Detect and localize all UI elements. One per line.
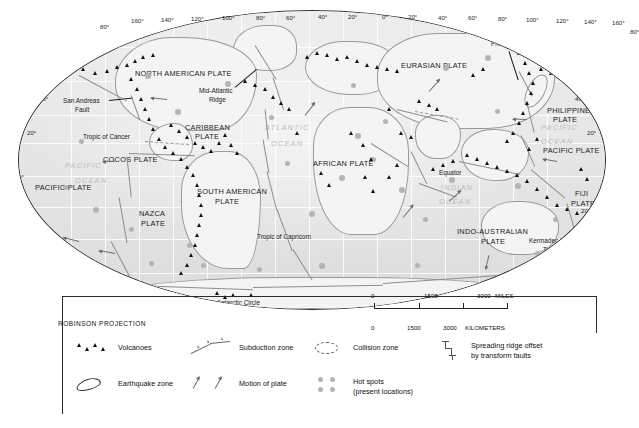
longitude-tick-120e: 120° [556,17,569,24]
volcano-marker [315,51,319,55]
volcano-marker [575,241,579,245]
hot-spot [309,211,315,217]
volcano-marker [193,243,197,247]
volcano-marker [279,101,283,105]
volcano-marker [435,107,439,111]
volcano-marker [45,255,49,259]
feature-label-san-andreas-line1: San Andreas [63,97,100,105]
longitude-tick-40w: 40° [318,13,327,20]
volcano-marker [525,179,529,183]
volcano-marker [583,251,587,255]
volcano-triangles-icon [77,342,111,354]
hot-spot [257,267,262,272]
volcano-marker [115,65,119,69]
volcano-marker [105,69,109,73]
volcano-marker [375,65,379,69]
plate-label-indo-australian-line2: PLATE [481,237,505,247]
feature-label-mid-atlantic-line2: Ridge [209,96,226,104]
volcano-marker [441,163,445,167]
legend-label-collision-zone: Collision zone [353,343,398,353]
volcano-marker [71,61,75,65]
longitude-tick-60w: 60° [286,14,295,21]
plate-label-pacific-right: PACIFIC PLATE [543,146,600,156]
volcano-marker [385,67,389,71]
longitude-tick-40e: 40° [438,14,447,21]
latitude-tick-left-60s: 60° [63,281,72,288]
map-area: PACIFIC OCEAN ATLANTIC OCEAN INDIAN OCEA… [18,10,606,315]
volcano-marker [517,121,521,125]
hot-spot [201,263,206,268]
legend-label-spreading-ridge: Spreading ridge offset [471,341,542,351]
volcano-marker [169,123,173,127]
volcano-marker [549,71,553,75]
volcano-marker [369,157,373,161]
feature-label-kermadec-line1: Kermadec-Tonga [529,237,578,245]
volcano-marker [521,111,525,115]
hot-spot [93,207,99,213]
hot-spot [149,261,154,266]
longitude-tick-160e: 160° [612,19,625,26]
hot-spot [319,263,325,269]
longitude-tick-100w: 100° [222,14,235,21]
volcano-marker [345,55,349,59]
longitude-edge-tick-right: 80° [630,28,639,35]
volcano-marker [515,173,519,177]
ocean-label-pacific-left-line1: PACIFIC [65,161,102,170]
hot-spot [399,187,405,193]
hot-spot [63,185,68,190]
legend-label-volcanoes: Volcanoes [118,343,152,353]
volcano-marker [523,61,527,65]
volcano-marker [143,107,147,111]
volcano-marker [235,151,239,155]
hot-spot [187,243,192,248]
latitude-tick-right-60s: 60° [547,283,556,290]
volcano-marker [355,59,359,63]
longitude-tick-0: 0° [382,13,388,20]
volcano-marker [569,81,573,85]
motion-arrows-icon [191,375,231,393]
hotspot-dots-icon [318,377,342,393]
legend-label-earthquake-zone: Earthquake zone [118,379,173,389]
volcano-marker [371,189,375,193]
volcano-marker [135,87,139,91]
volcano-marker [325,53,329,57]
landmass-north-america [115,37,257,131]
volcano-marker [535,187,539,191]
plate-label-indo-australian-line1: INDO-AUSTRALIAN [457,227,528,237]
volcano-marker [195,183,199,187]
volcano-marker [387,107,391,111]
hot-spot [515,183,521,189]
plate-label-nazca-line1: NAZCA [139,209,165,219]
longitude-tick-100e: 100° [526,16,539,23]
ocean-label-atlantic-line1: ATLANTIC [265,123,310,132]
plate-label-african: AFRICAN PLATE [313,159,374,169]
volcano-marker [525,101,529,105]
volcano-marker [271,95,275,99]
volcano-marker [361,143,365,147]
legend-box: Volcanoes Earthquake zone Subduction zon… [62,296,597,414]
feature-label-tropic-of-capricorn: Tropic of Capricorn [257,233,311,241]
hot-spot [485,55,491,61]
volcano-marker [475,157,479,161]
feature-label-mid-atlantic-line1: Mid-Atlantic [199,87,232,95]
hot-spot [79,139,84,144]
volcano-marker [585,177,589,181]
hot-spot [535,251,540,256]
volcano-marker [409,135,413,139]
volcano-marker [51,247,55,251]
volcano-marker [327,183,331,187]
latitude-tick-left-40n: 40° [39,95,48,102]
volcano-marker [495,165,499,169]
volcano-marker [511,131,515,135]
transform-fault-steps-icon [441,339,463,361]
landmass-india [415,115,461,159]
feature-label-equator: Equator [439,169,461,177]
feature-label-kermadec-line2: Trench [543,246,563,254]
volcano-marker [399,131,403,135]
latitude-tick-right-40n: 40° [575,95,584,102]
ocean-label-pacific-right-line2: OCEAN [541,137,573,146]
volcano-marker [335,57,339,61]
volcano-marker [527,71,531,75]
volcano-marker [363,175,367,179]
